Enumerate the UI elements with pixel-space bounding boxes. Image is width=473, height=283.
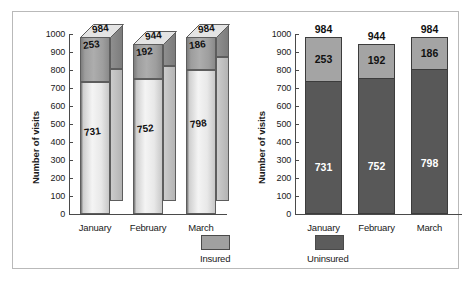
y-tick-400: 400 [277,137,291,147]
x-tick-january: January [66,222,124,233]
bar-insured-label: 186 [188,38,206,51]
y-tick-mark [295,88,299,89]
y-tick-mark [295,178,299,179]
legend-uninsured: Uninsured [307,234,397,266]
legend-label-uninsured: Uninsured [307,253,349,264]
y-tick-mark [295,196,299,197]
bar-total-label: 984 [305,23,342,35]
y-tick-100: 100 [277,191,291,201]
y-tick-800: 800 [277,65,291,75]
segment-uninsured [305,82,342,214]
right-chart-flat: Number of visits 10009008007006005004003… [248,16,463,256]
y-tick-300: 300 [277,155,291,165]
x-tick-march: March [172,222,230,233]
y-tick-mark [295,106,299,107]
bar-front-uninsured [186,70,216,214]
y-tick-mark [295,160,299,161]
x-tick-february: February [119,222,177,233]
y-tick-mark [295,124,299,125]
y-tick-600: 600 [277,101,291,111]
y-tick-mark [295,142,299,143]
x-tick-march: March [403,222,456,233]
x-tick-february: February [350,222,403,233]
bar-uninsured-label: 798 [411,157,448,169]
bar-insured-label: 253 [305,53,342,65]
y-tick-mark [295,70,299,71]
bar-uninsured-label: 798 [189,117,207,130]
y-tick-500: 500 [277,119,291,129]
bar-2d-march[interactable]: 984186798 [411,16,448,256]
bar-uninsured-label: 731 [305,161,342,173]
legend-swatch-insured [201,235,230,250]
y-tick-700: 700 [277,83,291,93]
segment-uninsured [411,70,448,214]
y-tick-900: 900 [277,47,291,57]
bar-uninsured-label: 752 [358,160,395,172]
y-tick-mark [295,52,299,53]
bar-side-uninsured [216,57,229,201]
x-tick-january: January [297,222,350,233]
left-chart-3d: Number of visits 10009008007006005004003… [20,16,230,256]
right-y-axis-title: Number of visits [256,111,267,184]
bar-total-label: 944 [358,30,395,42]
bar-2d-january[interactable]: 984253731 [305,16,342,256]
figure-canvas: Number of visits 10009008007006005004003… [0,0,473,283]
y-tick-200: 200 [277,173,291,183]
bar-2d-february[interactable]: 944192752 [358,16,395,256]
y-tick-1000: 1000 [272,29,291,39]
segment-uninsured [358,79,395,214]
bar-total-label: 984 [197,22,215,35]
bar-insured-label: 186 [411,47,448,59]
bar-total-label: 984 [411,23,448,35]
y-tick-0: 0 [286,209,291,219]
legend-label-insured: Insured [200,253,230,264]
y-tick-mark [295,34,299,35]
bar-3d-march[interactable]: 984186798 [20,16,230,256]
legend-swatch-uninsured [315,235,344,250]
bar-insured-label: 192 [358,54,395,66]
